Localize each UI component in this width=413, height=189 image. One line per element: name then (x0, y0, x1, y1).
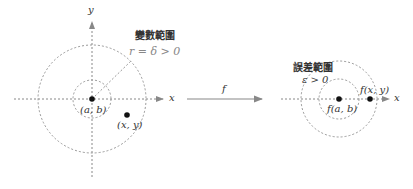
radius-label: r = δ > 0 (129, 46, 180, 57)
variable-range-title: 變數範圍 (135, 31, 175, 41)
error-range-title: 誤差範圍 (293, 63, 333, 73)
point-fxy (367, 96, 373, 102)
point-xy-label: (x, y) (117, 120, 142, 130)
left-y-axis-label: y (88, 5, 94, 15)
point-xy (124, 112, 130, 118)
diagram-canvas: y x 變數範圍 r = δ > 0 (a, b) (x, y) f 誤差範圍 … (0, 0, 413, 189)
mapping-f-label: f (222, 84, 226, 94)
left-x-axis-label: x (169, 93, 175, 103)
center-point-fab (336, 96, 342, 102)
center-point-ab (89, 96, 95, 102)
fab-label: f(a, b) (327, 104, 357, 114)
radius-line (92, 61, 131, 99)
right-x-axis-label: x (394, 93, 400, 103)
center-point-label: (a, b) (80, 105, 107, 115)
diagram-graphics (0, 0, 413, 189)
fxy-label: f(x, y) (360, 85, 389, 95)
epsilon-label: ε > 0 (302, 75, 328, 85)
